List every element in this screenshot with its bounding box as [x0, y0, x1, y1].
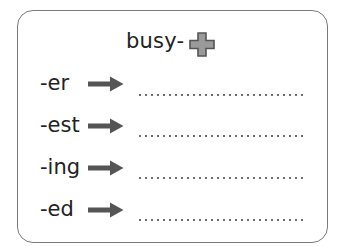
answer-line[interactable]	[137, 94, 304, 96]
right-arrow-icon	[88, 118, 124, 134]
base-word: busy-	[126, 29, 184, 53]
suffix-row-est: -est	[0, 113, 340, 143]
suffix-row-er: -er	[0, 71, 340, 101]
right-arrow-icon	[88, 202, 124, 218]
right-arrow-icon	[88, 76, 124, 92]
suffix-label: -ing	[40, 155, 80, 179]
plus-icon	[189, 32, 215, 57]
suffix-label: -ed	[40, 197, 74, 221]
suffix-label: -est	[40, 113, 80, 137]
answer-line[interactable]	[137, 135, 304, 137]
answer-line[interactable]	[137, 219, 304, 221]
suffix-row-ed: -ed	[0, 197, 340, 227]
right-arrow-icon	[88, 160, 124, 176]
title-row: busy-	[0, 0, 340, 60]
suffix-row-ing: -ing	[0, 155, 340, 185]
suffix-label: -er	[40, 71, 69, 95]
answer-line[interactable]	[137, 177, 304, 179]
